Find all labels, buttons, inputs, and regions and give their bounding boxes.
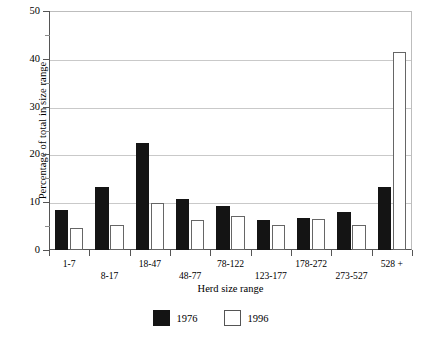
bar	[312, 219, 326, 250]
y-axis-tick-label: 30	[14, 102, 40, 112]
y-axis-tick-label: 20	[14, 149, 40, 159]
x-axis-tick	[130, 250, 131, 256]
bar	[378, 187, 392, 250]
y-axis-tick-label-wrap: 30	[10, 102, 40, 112]
x-axis-tick-label: 18-47	[120, 258, 180, 269]
y-axis-tick-label-wrap: 20	[10, 149, 40, 159]
x-axis-tick	[251, 250, 252, 256]
bar	[151, 203, 165, 250]
bar-chart: Percentage of total in size range 010203…	[0, 0, 421, 342]
legend-item: 1976	[153, 310, 198, 326]
y-axis-tick-label: 40	[14, 54, 40, 64]
x-axis-tick-label: 78-122	[201, 258, 261, 269]
x-axis-tick-label: 528 +	[362, 258, 421, 269]
bar	[257, 220, 271, 250]
legend-swatch	[153, 310, 170, 326]
bar	[337, 212, 351, 250]
legend-swatch	[224, 310, 241, 326]
bar	[297, 218, 311, 251]
x-axis-title: Herd size range	[49, 283, 412, 294]
bar	[231, 216, 245, 250]
y-axis-tick-label-wrap: 0	[10, 245, 40, 255]
bar	[110, 225, 124, 250]
x-axis-tick	[49, 250, 50, 256]
x-axis-tick	[331, 250, 332, 256]
bar	[95, 187, 109, 250]
bar	[55, 210, 69, 250]
x-axis-tick-label: 8-17	[80, 270, 140, 281]
bars-layer	[49, 11, 412, 250]
bar	[272, 225, 286, 250]
bar	[216, 206, 230, 250]
bar	[70, 228, 84, 250]
legend-label: 1976	[177, 313, 198, 324]
y-axis-tick-label-wrap: 40	[10, 54, 40, 64]
bar	[176, 199, 190, 250]
x-axis-tick	[291, 250, 292, 256]
y-axis-tick-label-wrap: 10	[10, 197, 40, 207]
y-axis-tick-label: 10	[14, 197, 40, 207]
x-axis-tick	[372, 250, 373, 256]
y-axis-tick-label: 0	[14, 245, 40, 255]
x-axis-tick-label: 1-7	[39, 258, 99, 269]
legend: 19761996	[0, 310, 421, 326]
y-axis-tick-label-wrap: 50	[10, 6, 40, 16]
x-axis-tick	[412, 250, 413, 256]
legend-label: 1996	[248, 313, 269, 324]
x-axis-tick	[89, 250, 90, 256]
legend-item: 1996	[224, 310, 269, 326]
bar	[352, 225, 366, 250]
x-axis-tick	[210, 250, 211, 256]
x-axis-tick	[170, 250, 171, 256]
bar	[393, 52, 407, 250]
bar	[136, 143, 150, 250]
y-axis-tick-label: 50	[14, 6, 40, 16]
bar	[191, 220, 205, 250]
x-axis-tick-label: 48-77	[160, 270, 220, 281]
x-axis-tick-label: 123-177	[241, 270, 301, 281]
x-axis-tick-label: 178-272	[281, 258, 341, 269]
x-axis-tick-label: 273-527	[322, 270, 382, 281]
